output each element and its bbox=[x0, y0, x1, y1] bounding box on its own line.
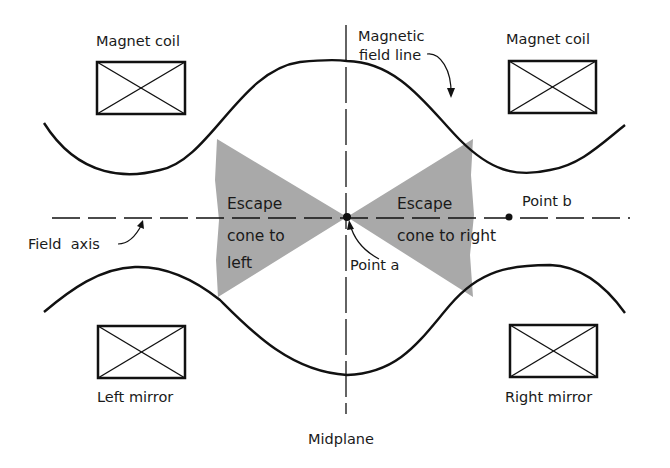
label-field-line-1: Magnetic bbox=[358, 28, 424, 44]
label-point-a: Point a bbox=[350, 257, 400, 273]
magnet-coil-top-right bbox=[509, 61, 596, 113]
left-mirror-coil bbox=[98, 326, 185, 378]
label-escape-right-2: cone to right bbox=[397, 227, 496, 245]
field-line-leader-arrow bbox=[427, 54, 455, 98]
label-escape-left-1: Escape bbox=[227, 195, 282, 213]
right-mirror-coil bbox=[510, 325, 597, 377]
label-field-line-2: field line bbox=[359, 47, 421, 63]
upper-field-line bbox=[44, 60, 625, 174]
point-b bbox=[506, 214, 513, 221]
field-axis-leader-arrow bbox=[118, 220, 144, 244]
label-escape-right-1: Escape bbox=[397, 195, 452, 213]
label-field-axis: Field axis bbox=[28, 236, 100, 252]
label-magnet-coil-left: Magnet coil bbox=[96, 33, 180, 49]
point-a bbox=[343, 213, 351, 221]
label-point-b: Point b bbox=[522, 193, 572, 209]
magnetic-mirror-diagram: Magnet coil Magnet coil Magnetic field l… bbox=[0, 0, 670, 468]
label-left-mirror: Left mirror bbox=[97, 389, 173, 405]
label-right-mirror: Right mirror bbox=[505, 389, 592, 405]
label-midplane: Midplane bbox=[308, 431, 374, 447]
label-magnet-coil-right: Magnet coil bbox=[506, 31, 590, 47]
label-escape-left-2: cone to bbox=[227, 227, 285, 245]
label-escape-left-3: left bbox=[227, 254, 252, 272]
magnet-coil-top-left bbox=[97, 62, 185, 114]
